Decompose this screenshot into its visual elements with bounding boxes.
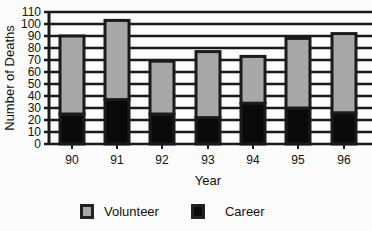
bar-segment-volunteer xyxy=(241,56,265,103)
y-tick-label: 90 xyxy=(28,29,42,43)
y-tick-label: 0 xyxy=(34,137,41,151)
x-tick-label: 93 xyxy=(201,153,215,167)
bar-segment-career xyxy=(105,100,129,144)
legend-label-volunteer: Volunteer xyxy=(104,204,159,219)
y-tick-label: 110 xyxy=(22,5,41,19)
y-tick-label: 40 xyxy=(28,89,42,103)
x-tick-label: 95 xyxy=(291,153,305,167)
bar-segment-career xyxy=(150,114,174,144)
bar-segment-volunteer xyxy=(286,38,310,108)
x-tick-label: 91 xyxy=(110,153,124,167)
x-tick-label: 96 xyxy=(337,153,351,167)
legend-item-career: Career xyxy=(191,204,265,219)
bar-segment-career xyxy=(196,118,220,144)
bar-segment-volunteer xyxy=(196,52,220,118)
bar-segment-career xyxy=(241,103,265,144)
legend: Volunteer Career xyxy=(80,204,265,219)
volunteer-swatch-icon xyxy=(80,204,94,219)
bar-segment-volunteer xyxy=(150,61,174,114)
bar-segment-volunteer xyxy=(60,36,84,114)
bar-segment-career xyxy=(286,108,310,144)
x-tick-label: 94 xyxy=(246,153,260,167)
bar-segment-volunteer xyxy=(105,20,129,99)
career-swatch-icon xyxy=(191,204,205,219)
bar-segment-career xyxy=(332,113,356,144)
stacked-bar-chart: 010203040506070809010011090919293949596Y… xyxy=(0,0,372,200)
y-tick-label: 20 xyxy=(28,113,42,127)
bar-segment-volunteer xyxy=(332,34,356,113)
y-tick-label: 60 xyxy=(28,65,42,79)
legend-item-volunteer: Volunteer xyxy=(80,204,159,219)
y-tick-label: 80 xyxy=(28,41,42,55)
bar-segment-career xyxy=(60,114,84,144)
y-tick-label: 50 xyxy=(28,77,42,91)
legend-label-career: Career xyxy=(225,204,265,219)
y-axis-title: Number of Deaths xyxy=(2,25,17,131)
x-tick-label: 90 xyxy=(65,153,79,167)
y-tick-label: 100 xyxy=(21,17,41,31)
y-tick-label: 70 xyxy=(28,53,42,67)
x-axis-title: Year xyxy=(195,173,222,188)
y-tick-label: 10 xyxy=(28,125,42,139)
y-tick-label: 30 xyxy=(28,101,42,115)
x-tick-label: 92 xyxy=(155,153,169,167)
